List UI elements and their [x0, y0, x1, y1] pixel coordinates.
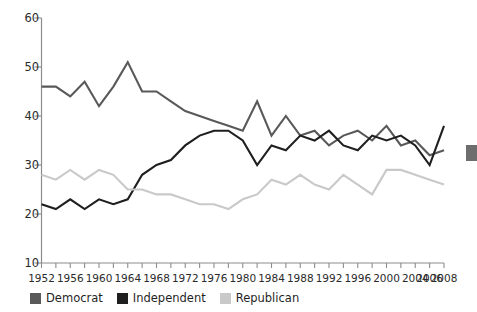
x-tick-label: 1992: [316, 272, 343, 284]
y-tick-label: 10: [25, 256, 40, 270]
x-tick-label: 1960: [86, 272, 113, 284]
y-tick-label: 20: [25, 207, 40, 221]
legend-swatch-icon: [220, 293, 231, 304]
y-tick-label: 60: [25, 11, 40, 25]
chart-legend: DemocratIndependentRepublican: [30, 291, 313, 305]
legend-item-republican[interactable]: Republican: [220, 291, 300, 305]
chart-plot-area: 1020304050601952195619601964196819721976…: [0, 0, 477, 312]
x-tick-label: 1980: [229, 272, 256, 284]
line-chart: 1020304050601952195619601964196819721976…: [0, 0, 477, 312]
legend-swatch-icon: [117, 293, 128, 304]
legend-item-democrat[interactable]: Democrat: [30, 291, 103, 305]
series-line-independent: [42, 126, 445, 209]
x-tick-label: 1988: [287, 272, 314, 284]
x-tick-label: 1968: [143, 272, 170, 284]
x-tick-label: 1984: [258, 272, 285, 284]
x-tick-label: 1952: [28, 272, 55, 284]
y-tick-label: 50: [25, 60, 40, 74]
x-tick-label: 2000: [373, 272, 400, 284]
edge-marker-swatch: [466, 145, 477, 161]
y-tick-label: 30: [25, 158, 40, 172]
x-tick-label: 2008: [431, 272, 458, 284]
x-tick-label: 1956: [57, 272, 84, 284]
y-tick-label: 40: [25, 109, 40, 123]
x-tick-label: 1972: [172, 272, 199, 284]
legend-label: Independent: [133, 291, 206, 305]
x-tick-label: 1996: [344, 272, 371, 284]
x-tick-label: 1964: [114, 272, 141, 284]
x-tick-label: 1976: [201, 272, 228, 284]
legend-item-independent[interactable]: Independent: [117, 291, 206, 305]
legend-label: Democrat: [46, 291, 103, 305]
legend-swatch-icon: [30, 293, 41, 304]
legend-label: Republican: [236, 291, 300, 305]
series-line-republican: [42, 170, 445, 209]
